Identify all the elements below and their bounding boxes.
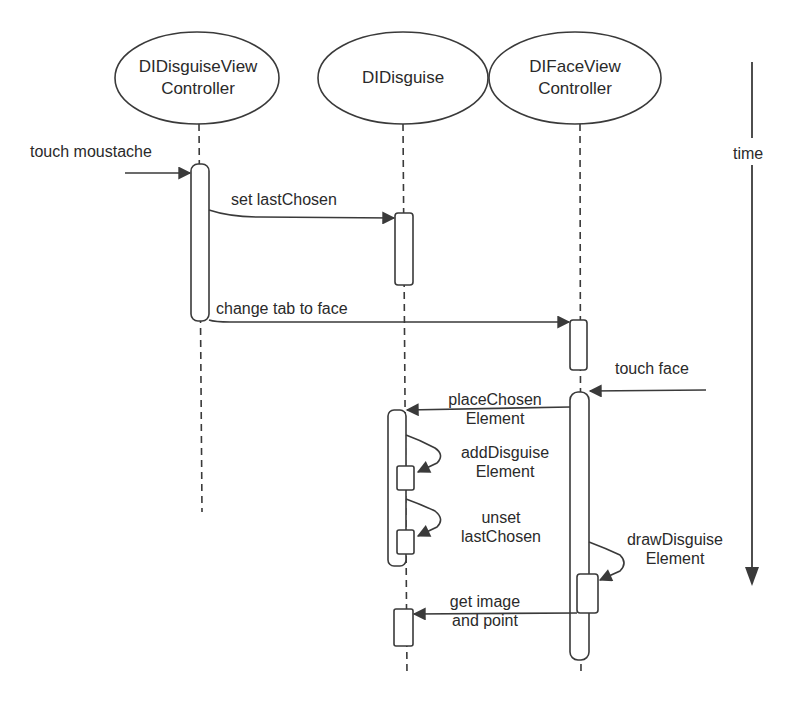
activation-didisguise-nested-2 bbox=[397, 530, 414, 554]
message-label-line1: drawDisguise bbox=[600, 530, 750, 549]
activation-didisguise-3 bbox=[394, 609, 413, 646]
activation-difaceviewcontroller-1 bbox=[570, 320, 587, 370]
message-label-line1: get image bbox=[420, 592, 550, 611]
activation-didisguiseviewcontroller bbox=[191, 164, 209, 321]
message-label-adddisguise-element: addDisguise Element bbox=[440, 443, 570, 481]
message-label-drawdisguise-element: drawDisguise Element bbox=[600, 530, 750, 568]
activation-didisguise-1 bbox=[395, 213, 413, 285]
message-label-get-image-and-point: get image and point bbox=[420, 592, 550, 630]
message-label-line2: Element bbox=[430, 409, 560, 428]
time-axis-arrowhead-icon bbox=[745, 567, 759, 586]
participant-name-line1: DIDisguiseView bbox=[117, 56, 279, 78]
participant-name-line1: DIDisguise bbox=[320, 67, 486, 89]
message-label-touch-face: touch face bbox=[615, 359, 689, 378]
participant-name-line1: DIFaceView bbox=[492, 56, 658, 78]
activation-difaceviewcontroller-2 bbox=[570, 392, 589, 660]
message-label-placechosen-element: placeChosen Element bbox=[430, 390, 560, 428]
participant-label-didisguiseviewcontroller: DIDisguiseView Controller bbox=[117, 56, 279, 100]
time-axis-label: time bbox=[733, 144, 763, 163]
message-label-set-lastchosen: set lastChosen bbox=[231, 190, 337, 209]
participant-name-line2: Controller bbox=[492, 78, 658, 100]
lifeline-didisguise bbox=[403, 124, 407, 676]
message-label-line1: placeChosen bbox=[430, 390, 560, 409]
participant-label-didisguise: DIDisguise bbox=[320, 67, 486, 89]
message-label-touch-moustache: touch moustache bbox=[30, 142, 152, 161]
message-label-line2: Element bbox=[440, 462, 570, 481]
activation-didisguise-nested-1 bbox=[397, 466, 414, 490]
participant-label-difaceviewcontroller: DIFaceView Controller bbox=[492, 56, 658, 100]
sequence-diagram-canvas bbox=[0, 0, 799, 702]
message-label-line2: and point bbox=[420, 611, 550, 630]
activation-difaceviewcontroller-nested bbox=[577, 574, 598, 613]
participant-name-line2: Controller bbox=[117, 78, 279, 100]
message-label-line1: unset bbox=[436, 508, 566, 527]
message-arrow-change-tab-to-face bbox=[209, 320, 569, 322]
message-label-line1: addDisguise bbox=[440, 443, 570, 462]
message-arrow-touch-face bbox=[590, 390, 706, 391]
message-label-line2: Element bbox=[600, 549, 750, 568]
message-label-line2: lastChosen bbox=[436, 527, 566, 546]
message-arrow-set-lastchosen bbox=[209, 210, 394, 218]
message-label-unset-lastchosen: unset lastChosen bbox=[436, 508, 566, 546]
message-label-change-tab-to-face: change tab to face bbox=[216, 299, 348, 318]
